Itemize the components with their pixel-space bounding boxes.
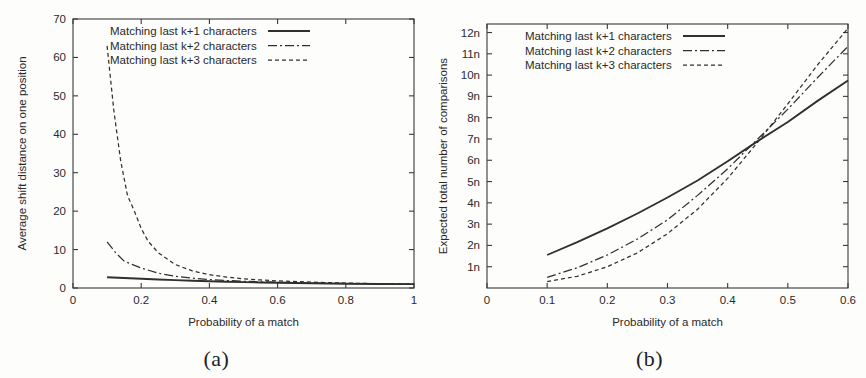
caption-b: (b): [433, 346, 866, 372]
series-line-1: [107, 277, 414, 284]
y-tick-label: 8n: [467, 112, 480, 124]
series-line-2: [547, 46, 848, 277]
y-tick-label: 30: [53, 167, 66, 179]
y-tick-label: 40: [53, 128, 66, 140]
y-tick-label: 5n: [467, 176, 480, 188]
x-tick-label: 0.4: [720, 294, 737, 306]
y-tick-label: 10: [53, 244, 66, 256]
x-tick-label: 0.6: [840, 294, 856, 306]
y-tick-label: 2n: [467, 239, 480, 251]
legend-label-3: Matching last k+3 characters: [525, 59, 672, 71]
legend-label-2: Matching last k+2 characters: [525, 45, 672, 57]
y-tick-label: 3n: [467, 218, 480, 230]
y-tick-label: 11n: [462, 48, 480, 60]
x-tick-label: 0.2: [599, 294, 615, 306]
x-tick-label: 0.8: [338, 294, 354, 306]
y-tick-label: 7n: [467, 133, 480, 145]
y-tick-label: 4n: [467, 197, 480, 209]
y-axis-title: Average shift distance on one position: [16, 56, 28, 250]
y-tick-label: 12n: [461, 27, 480, 39]
legend-label-1: Matching last k+1 characters: [110, 25, 257, 37]
legend-label-1: Matching last k+1 characters: [525, 30, 672, 42]
x-tick-label: 0.1: [539, 294, 555, 306]
series-line-3: [107, 46, 414, 284]
panel-b: 00.10.20.30.40.50.61n2n3n4n5n6n7n8n9n10n…: [433, 0, 866, 378]
chart-b: 00.10.20.30.40.50.61n2n3n4n5n6n7n8n9n10n…: [433, 0, 866, 330]
x-tick-label: 0.2: [133, 294, 149, 306]
x-tick-label: 0.6: [270, 294, 286, 306]
y-tick-label: 50: [53, 90, 66, 102]
y-tick-label: 20: [53, 205, 66, 217]
panel-a: 00.20.40.60.81010203040506070Probability…: [0, 0, 433, 378]
x-tick-label: 0.5: [780, 294, 796, 306]
y-tick-label: 0: [60, 282, 66, 294]
x-axis-title: Probability of a match: [188, 316, 299, 328]
y-tick-label: 60: [53, 51, 66, 63]
y-tick-label: 70: [53, 13, 66, 25]
caption-a: (a): [0, 346, 433, 372]
series-line-1: [547, 80, 848, 255]
y-axis-title: Expected total number of comparisons: [437, 58, 449, 254]
figure-container: 00.20.40.60.81010203040506070Probability…: [0, 0, 866, 378]
y-tick-label: 9n: [467, 90, 480, 102]
y-tick-label: 6n: [467, 154, 480, 166]
x-tick-label: 0.3: [660, 294, 676, 306]
x-axis-title: Probability of a match: [612, 316, 723, 328]
legend-label-2: Matching last k+2 characters: [110, 40, 257, 52]
legend-label-3: Matching last k+3 characters: [110, 54, 257, 66]
x-tick-label: 0: [484, 294, 490, 306]
y-tick-label: 1n: [467, 261, 480, 273]
chart-a: 00.20.40.60.81010203040506070Probability…: [0, 0, 433, 330]
x-tick-label: 0: [70, 294, 76, 306]
x-tick-label: 0.4: [201, 294, 218, 306]
x-tick-label: 1: [411, 294, 417, 306]
y-tick-label: 10n: [461, 69, 480, 81]
series-line-2: [107, 242, 414, 284]
